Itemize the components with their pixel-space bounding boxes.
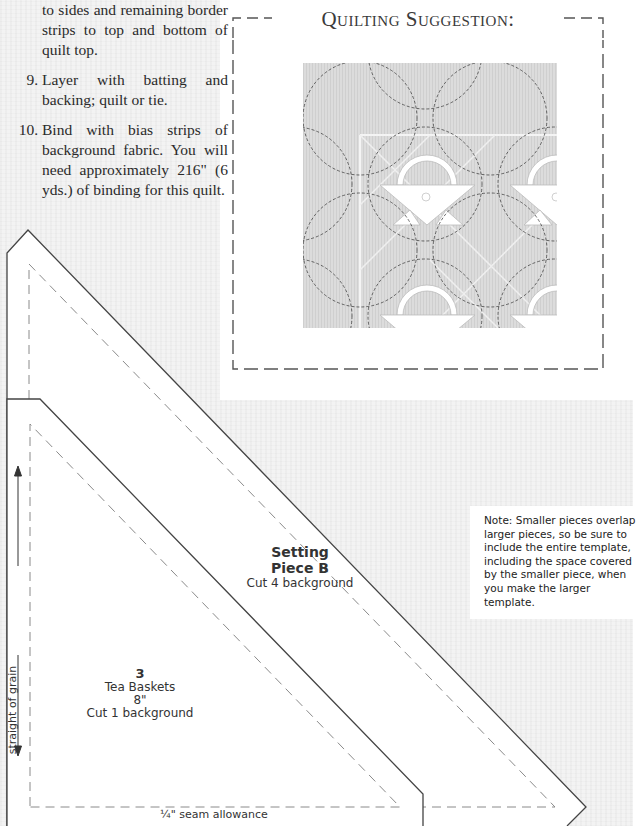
basket-piece-cut: Cut 1 background bbox=[70, 707, 210, 720]
straight-of-grain-label: straight of grain bbox=[6, 660, 20, 760]
setting-piece-title-2: Piece B bbox=[230, 560, 370, 576]
setting-piece-label: Setting Piece B Cut 4 background bbox=[230, 544, 370, 591]
basket-piece-label: 3 Tea Baskets 8" Cut 1 background bbox=[70, 666, 210, 720]
basket-piece-number: 3 bbox=[70, 666, 210, 681]
setting-piece-cut: Cut 4 background bbox=[230, 576, 370, 591]
setting-piece-title-1: Setting bbox=[230, 544, 370, 560]
seam-allowance-label: ¼" seam allowance bbox=[160, 808, 360, 821]
template-note: Note: Smaller pieces overlap larger piec… bbox=[470, 506, 640, 619]
